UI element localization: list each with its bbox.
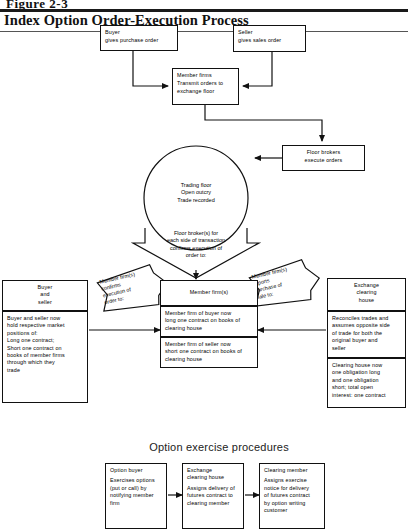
bottom-step-exchange-clearing-house[interactable]: Exchange clearing house Assigns delivery… [182,463,244,529]
column-buyer-seller-cell-0[interactable]: Buyer and seller now hold respective mar… [2,311,88,403]
seller-box[interactable]: Seller gives sales order [233,25,306,52]
column-buyer-seller-cell-0-label: Buyer and seller now hold respective mar… [3,312,87,377]
seller-box-body: gives sales order [234,36,305,47]
column-member-firms-header-label: Member firm(s) [161,281,257,299]
column-member-firms-cell-1[interactable]: Member firm of seller now short one cont… [160,337,258,368]
seller-box-heading: Seller [234,26,305,36]
column-clearing-house-cell-1[interactable]: Clearing house now one obligation long a… [327,358,406,408]
column-member-firms-header[interactable]: Member firm(s) [160,280,258,306]
trading-floor-label: Trading floor Open outcry Trade recorded [151,182,241,204]
bottom-step-exchange-clearing-house-body: Assigns delivery of futures contract to … [183,482,243,510]
floor-brokers-body: execute orders [283,156,364,167]
bottom-step-option-buyer-body: Exercises options (put or call) by notif… [106,474,166,510]
column-clearing-house-header-label: Exchange clearing house [328,279,405,307]
bottom-step-option-buyer[interactable]: Option buyer Exercises options (put or c… [105,463,167,529]
buyer-box-body: gives purchase order [101,36,177,47]
member-firms-box[interactable]: Member firms Transmit orders to exchange… [172,68,239,105]
floor-brokers-heading: Floor brokers [283,146,364,156]
column-clearing-house-cell-0-label: Reconciles trades and assumes opposite s… [328,312,405,355]
column-clearing-house-cell-0[interactable]: Reconciles trades and assumes opposite s… [327,311,406,358]
bottom-step-exchange-clearing-house-heading: Exchange clearing house [183,464,243,482]
member-firms-heading: Member firms [173,69,238,79]
floor-brokers-box[interactable]: Floor brokers execute orders [282,145,365,171]
funnel-label: Floor broker(s) for each side of transac… [146,230,246,260]
column-member-firms-cell-0[interactable]: Member firm of buyer now long one contra… [160,306,258,337]
column-member-firms-cell-0-label: Member firm of buyer now long one contra… [161,307,257,335]
bottom-step-clearing-member[interactable]: Clearing member Assigns exercise notice … [259,463,325,529]
column-buyer-seller-header[interactable]: Buyer and seller [2,280,88,311]
column-member-firms-cell-1-label: Member firm of seller now short one cont… [161,338,257,366]
buyer-box-heading: Buyer [101,26,177,36]
bottom-step-option-buyer-heading: Option buyer [106,464,166,474]
buyer-box[interactable]: Buyer gives purchase order [100,25,178,51]
bottom-step-clearing-member-body: Assigns exercise notice for delivery of … [260,474,324,517]
column-buyer-seller-header-label: Buyer and seller [3,281,87,309]
bottom-step-clearing-member-heading: Clearing member [260,464,324,474]
member-firms-body: Transmit orders to exchange floor [173,79,238,98]
option-exercise-title: Option exercise procedures [104,441,334,453]
column-clearing-house-cell-1-label: Clearing house now one obligation long a… [328,359,405,402]
column-clearing-house-header[interactable]: Exchange clearing house [327,278,406,311]
